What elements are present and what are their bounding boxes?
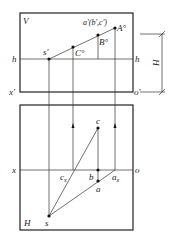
label-h-left: h bbox=[12, 54, 17, 64]
label-c: c bbox=[96, 116, 100, 126]
label-b: b bbox=[89, 172, 94, 182]
label-A: A° bbox=[116, 23, 126, 33]
label-s: s bbox=[45, 218, 49, 228]
label-dim-H: H bbox=[151, 59, 161, 67]
label-B: B° bbox=[99, 37, 108, 47]
label-s-prime: s' bbox=[43, 47, 50, 57]
arrow-up-icon bbox=[72, 123, 75, 128]
arrow-up-icon bbox=[114, 123, 117, 128]
point-a bbox=[96, 179, 99, 182]
horizontal-plane-frame bbox=[20, 105, 133, 230]
label-a-prime-group: a'(b',c') bbox=[83, 18, 107, 27]
label-x-prime: x' bbox=[8, 87, 16, 97]
projection-diagram: V H h h x' o' x o s' C° B° A° a'(b',c') … bbox=[0, 0, 175, 243]
label-ax: ax bbox=[112, 172, 120, 183]
label-H: H bbox=[23, 218, 31, 228]
label-V: V bbox=[23, 16, 30, 26]
label-x: x bbox=[11, 165, 16, 175]
point-b bbox=[96, 168, 99, 171]
label-a: a bbox=[96, 184, 101, 194]
point-s-prime bbox=[47, 57, 50, 60]
label-o-prime: o' bbox=[134, 87, 142, 97]
label-h-right: h bbox=[135, 54, 140, 64]
label-cx: cx bbox=[60, 172, 67, 183]
point-c bbox=[96, 126, 99, 129]
label-o: o bbox=[135, 165, 140, 175]
line-ax-to-s bbox=[49, 170, 115, 216]
label-C: C° bbox=[75, 48, 85, 58]
